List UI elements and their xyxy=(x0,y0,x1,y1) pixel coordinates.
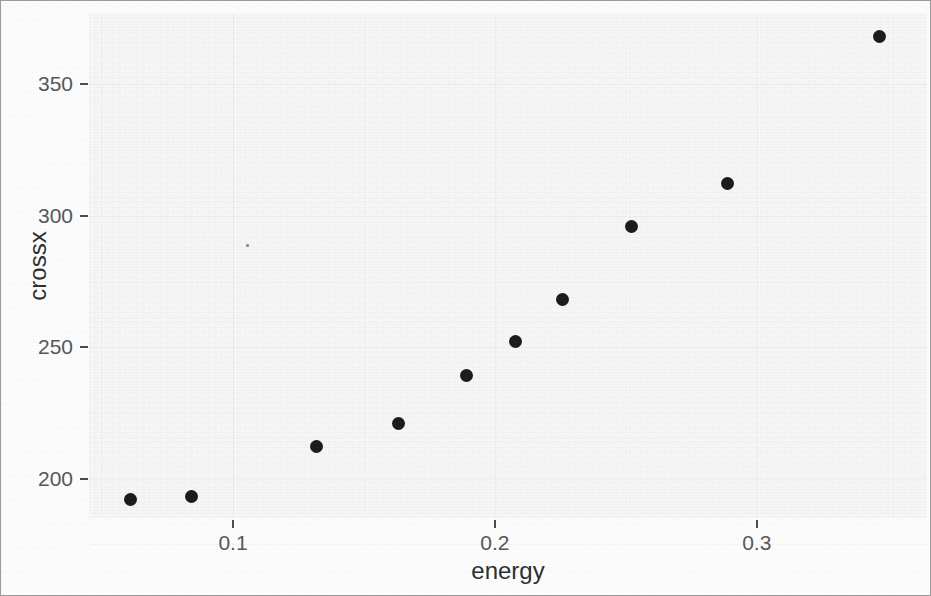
y-axis-title: crossx xyxy=(24,231,52,300)
gridline-horizontal-minor xyxy=(89,18,927,19)
scan-artifact-speck xyxy=(246,244,249,247)
y-axis-tick-mark xyxy=(80,83,88,85)
data-point xyxy=(625,220,638,233)
plot-panel xyxy=(89,13,927,518)
gridline-vertical-minor xyxy=(888,13,889,518)
y-axis-tick-mark xyxy=(80,215,88,217)
gridline-horizontal-minor xyxy=(89,413,927,414)
x-axis-tick-mark xyxy=(756,520,758,528)
gridline-vertical-minor xyxy=(364,13,365,518)
y-axis-tick-label: 250 xyxy=(11,335,73,359)
data-point xyxy=(556,293,569,306)
y-axis-tick-mark xyxy=(80,346,88,348)
gridline-horizontal xyxy=(89,84,927,85)
data-point xyxy=(873,30,886,43)
x-axis-title: energy xyxy=(89,557,927,585)
gridline-vertical-minor xyxy=(102,13,103,518)
y-axis-tick-mark xyxy=(80,478,88,480)
data-point xyxy=(721,177,734,190)
gridline-vertical xyxy=(233,13,234,518)
x-axis-tick-mark xyxy=(494,520,496,528)
y-axis-tick-label: 350 xyxy=(11,72,73,96)
x-axis-tick-mark xyxy=(232,520,234,528)
gridline-vertical xyxy=(757,13,758,518)
gridline-horizontal xyxy=(89,216,927,217)
gridline-horizontal xyxy=(89,479,927,480)
data-point xyxy=(392,417,405,430)
x-axis-tick-label: 0.3 xyxy=(717,531,797,555)
x-axis-tick-label: 0.2 xyxy=(455,531,535,555)
gridline-horizontal-minor xyxy=(89,150,927,151)
gridline-horizontal-minor xyxy=(89,281,927,282)
y-axis-tick-label: 200 xyxy=(11,467,73,491)
data-point xyxy=(460,369,473,382)
data-point xyxy=(185,490,198,503)
data-point xyxy=(124,493,137,506)
scatter-plot-figure: 200250300350 0.10.20.3 crossx energy xyxy=(0,0,931,596)
gridline-vertical-minor xyxy=(626,13,627,518)
gridline-horizontal xyxy=(89,347,927,348)
panel-paper-grain xyxy=(89,13,927,518)
x-axis-tick-label: 0.1 xyxy=(193,531,273,555)
y-axis-tick-label: 300 xyxy=(11,204,73,228)
gridline-vertical xyxy=(495,13,496,518)
data-point xyxy=(310,440,323,453)
